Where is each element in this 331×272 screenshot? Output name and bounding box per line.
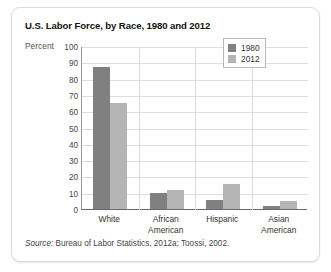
legend-item-1980: 1980 (228, 42, 260, 53)
y-tick-label: 10 (56, 189, 78, 198)
y-axis-tick-labels: 100 90 80 70 60 50 40 30 20 10 0 (52, 47, 78, 211)
bar-group-hispanic (195, 46, 252, 209)
bar-white-1980 (93, 67, 110, 209)
legend-label-2012: 2012 (241, 54, 260, 64)
y-tick-label: 30 (56, 157, 78, 166)
y-tick-label: 70 (56, 91, 78, 100)
chart-legend: 1980 2012 (223, 38, 266, 68)
y-tick-label: 80 (56, 75, 78, 84)
plot-wrap: White AfricanAmerican Hispanic AsianAmer… (81, 47, 307, 211)
y-tick-label: 40 (56, 140, 78, 149)
bar-group-white (82, 46, 139, 209)
y-tick-label: 50 (56, 124, 78, 133)
chart-title: U.S. Labor Force, by Race, 1980 and 2012 (25, 20, 210, 31)
y-tick-label: 60 (56, 108, 78, 117)
y-tick-label: 20 (56, 173, 78, 182)
y-tick-label: 100 (56, 43, 78, 52)
bar-group-african-american (139, 46, 196, 209)
bar-african-american-2012 (167, 190, 184, 209)
source-label: Source: (25, 239, 53, 248)
source-note: Source: Bureau of Labor Statistics, 2012… (25, 239, 229, 248)
bar-african-american-1980 (150, 193, 167, 209)
bar-white-2012 (110, 103, 127, 209)
legend-swatch-icon-2012 (228, 55, 236, 63)
y-axis-title: Percent (25, 41, 54, 51)
legend-item-2012: 2012 (228, 53, 260, 64)
figure-card: U.S. Labor Force, by Race, 1980 and 2012… (11, 7, 320, 262)
bar-hispanic-2012 (223, 184, 240, 209)
legend-label-1980: 1980 (241, 43, 260, 53)
bar-asian-american-1980 (263, 206, 280, 209)
y-tick-label: 90 (56, 59, 78, 68)
bar-asian-american-2012 (280, 201, 297, 209)
legend-swatch-icon-1980 (228, 44, 236, 52)
plot-area (81, 47, 307, 210)
source-citation: Bureau of Labor Statistics, 2012a; Tooss… (53, 239, 229, 248)
bar-hispanic-1980 (206, 200, 223, 209)
bar-group-asian-american (252, 46, 309, 209)
x-tick-label-asian-american: AsianAmerican (244, 214, 314, 235)
